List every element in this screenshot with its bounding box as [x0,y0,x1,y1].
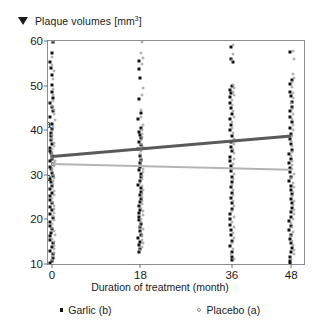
data-point [50,197,53,200]
data-point [50,226,53,229]
data-point [52,244,55,247]
data-point [141,210,144,213]
data-point [138,97,141,100]
data-point [230,104,233,107]
y-axis-tick-label: 40 [30,124,43,136]
data-point [292,213,295,216]
data-point [51,222,54,225]
data-point [141,188,144,191]
data-point [291,91,294,94]
data-point [52,218,55,221]
data-point [51,183,54,186]
y-axis-tick-mark [44,85,48,86]
data-point [53,234,56,237]
data-point [292,123,295,126]
data-point [232,131,235,134]
data-point [291,118,294,121]
data-point [53,145,56,148]
x-axis-tick-mark [291,264,292,268]
legend-label-placebo: Placebo (a) [206,304,260,316]
data-point [140,111,143,114]
data-point [139,231,142,234]
data-point [292,253,295,256]
data-point [289,155,292,158]
data-point [292,57,295,60]
data-point [50,134,53,137]
data-point [230,58,233,61]
y-axis-tick-mark [44,219,48,220]
data-point [292,248,295,251]
data-point [292,129,295,132]
data-point [232,109,235,112]
data-point [53,208,56,211]
data-point [140,94,143,97]
plaque-volume-chart: Plaque volumes [mm3] ab 1020304050600183… [0,0,320,331]
data-point [231,126,234,129]
data-point [139,181,142,184]
data-point [52,215,55,218]
data-point [50,90,53,93]
data-point [141,242,144,245]
data-point [291,81,294,84]
data-point [233,226,236,229]
data-point [292,190,295,193]
data-point [230,242,233,245]
data-point [232,188,235,191]
data-point [52,193,55,196]
data-point [142,171,145,174]
y-axis-tick-mark [44,130,48,131]
trend-line-label-a: a [48,118,51,130]
data-point [139,160,142,163]
data-point [231,210,234,213]
data-point [140,238,143,241]
data-point [228,129,231,132]
data-point [140,51,143,54]
data-point [231,163,234,166]
data-point [290,139,293,142]
data-point [139,156,142,159]
data-point [50,66,53,69]
data-point [141,178,144,181]
data-point [139,77,142,80]
data-point [232,172,235,175]
trend-line-a [52,134,291,158]
data-point [231,83,234,86]
data-point [232,199,235,202]
x-axis-tick-label: 36 [225,269,238,281]
data-point [52,94,55,97]
data-point [52,190,55,193]
data-point [290,226,293,229]
data-point [141,235,144,238]
data-point [292,73,295,76]
data-point [291,204,294,207]
data-point [231,194,234,197]
data-point [137,169,140,172]
data-point [52,211,55,214]
data-point [49,205,52,208]
data-point [53,108,56,111]
data-point [233,94,236,97]
data-point [141,128,144,131]
data-point [50,52,53,55]
data-point [53,241,56,244]
data-point [292,186,295,189]
x-axis-tick-label: 18 [134,269,147,281]
data-point [48,249,51,252]
data-point [141,87,144,90]
data-point [141,192,144,195]
data-point [291,150,294,153]
data-point [50,64,53,67]
plot-inner: ab [48,41,304,264]
data-point [53,204,56,207]
x-axis-tick-label: 0 [49,269,55,281]
plot-area: ab 1020304050600183648 [47,40,305,265]
data-point [138,212,141,215]
data-point [232,87,235,90]
data-point [232,205,235,208]
data-point [230,221,233,224]
data-point [141,123,144,126]
data-point [139,248,142,251]
x-axis-title: Duration of treatment (month) [0,281,320,293]
data-point [53,119,56,122]
data-point [51,255,54,258]
